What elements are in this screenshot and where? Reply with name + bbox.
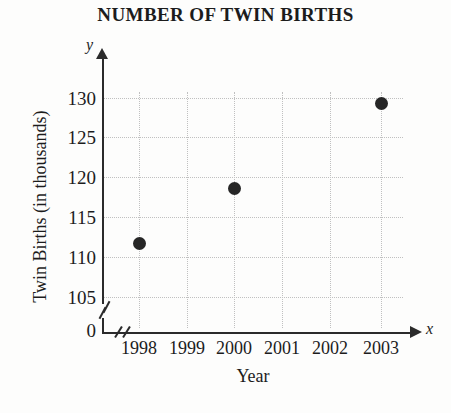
gridline-horizontal-115 xyxy=(103,217,403,218)
y-tick-label-120: 120 xyxy=(50,167,96,189)
data-point-2000 xyxy=(228,182,241,195)
x-axis-arrow-icon xyxy=(410,326,422,338)
x-tick-label-2002: 2002 xyxy=(302,338,358,359)
gridline-horizontal-110 xyxy=(103,257,403,258)
x-axis-title: Year xyxy=(103,366,403,387)
plot-area xyxy=(103,92,403,328)
y-axis-tick-labels: 130 125 120 115 110 105 0 xyxy=(44,0,96,413)
y-axis-title: Twin Births (in thousands) xyxy=(30,77,51,337)
gridline-vertical-2000 xyxy=(234,92,235,328)
gridline-horizontal-105 xyxy=(103,297,403,298)
data-point-1998 xyxy=(133,237,146,250)
y-tick-label-110: 110 xyxy=(50,247,96,269)
y-tick-label-105: 105 xyxy=(50,287,96,309)
gridline-vertical-2002 xyxy=(330,92,331,328)
gridline-vertical-2001 xyxy=(282,92,283,328)
x-axis-line xyxy=(103,332,413,334)
gridline-horizontal-130 xyxy=(103,98,403,99)
y-tick-label-130: 130 xyxy=(50,88,96,110)
y-tick-label-115: 115 xyxy=(50,207,96,229)
x-tick-label-2003: 2003 xyxy=(353,338,409,359)
y-tick-label-125: 125 xyxy=(50,127,96,149)
gridline-vertical-1998 xyxy=(139,92,140,328)
x-axis-variable-letter: x xyxy=(426,320,433,338)
data-point-2003 xyxy=(375,97,388,110)
y-axis-line xyxy=(102,56,104,304)
y-axis-arrow-icon xyxy=(96,48,108,59)
gridline-vertical-2003 xyxy=(381,92,382,328)
chart-screenshot: NUMBER OF TWIN BIRTHS y x 130 125 120 11… xyxy=(0,0,451,413)
gridline-horizontal-125 xyxy=(103,137,403,138)
gridline-horizontal-120 xyxy=(103,177,403,178)
gridline-vertical-1999 xyxy=(187,92,188,328)
y-tick-label-origin: 0 xyxy=(50,320,96,342)
